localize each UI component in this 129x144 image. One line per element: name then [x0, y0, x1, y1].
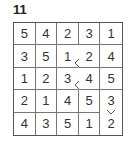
grid-cell[interactable]: 5 — [57, 113, 79, 135]
grid-cell[interactable]: 3 — [14, 45, 36, 67]
grid-cell[interactable]: 2 — [57, 23, 79, 45]
puzzle-number: 11 — [13, 3, 27, 17]
grid-cell[interactable]: 3 — [57, 68, 79, 90]
grid-cell[interactable]: 2 — [100, 113, 122, 135]
grid-cell[interactable]: 4 — [57, 90, 79, 112]
grid-cell[interactable]: 1 — [79, 113, 101, 135]
grid-cell[interactable]: 4 — [100, 45, 122, 67]
grid-cell[interactable]: 3 — [100, 90, 122, 112]
grid-cell[interactable]: 4 — [79, 68, 101, 90]
grid-cell[interactable]: 2 — [14, 90, 36, 112]
grid-cell[interactable]: 5 — [79, 90, 101, 112]
grid-cell[interactable]: 5 — [100, 68, 122, 90]
grid-cell[interactable]: 1 — [57, 45, 79, 67]
grid-cell[interactable]: 4 — [14, 113, 36, 135]
grid-cell[interactable]: 1 — [36, 90, 58, 112]
grid-cell[interactable]: 2 — [36, 68, 58, 90]
puzzle-grid: 5423135124123452145343512 — [13, 22, 123, 136]
grid-cell[interactable]: 3 — [79, 23, 101, 45]
grid-cell[interactable]: 2 — [79, 45, 101, 67]
grid-cell[interactable]: 1 — [100, 23, 122, 45]
grid-cell[interactable]: 4 — [36, 23, 58, 45]
grid-cell[interactable]: 1 — [14, 68, 36, 90]
grid-cell[interactable]: 3 — [36, 113, 58, 135]
grid-cell[interactable]: 5 — [36, 45, 58, 67]
grid-cell[interactable]: 5 — [14, 23, 36, 45]
